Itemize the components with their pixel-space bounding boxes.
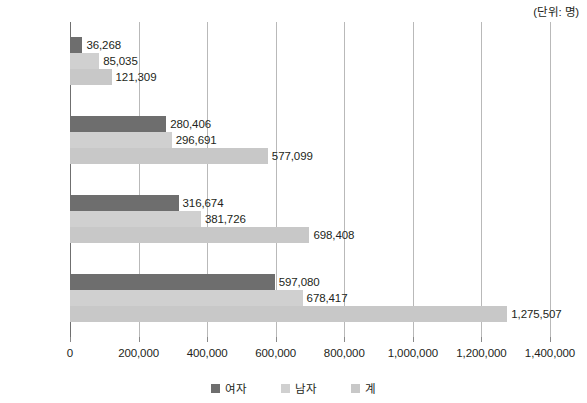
- gridline: [413, 22, 414, 337]
- x-axis-tick-label: 400,000: [187, 347, 228, 359]
- legend-item[interactable]: 계: [351, 380, 376, 396]
- bar: [70, 37, 82, 53]
- gridline: [481, 22, 482, 337]
- bar-value-label: 296,691: [176, 134, 217, 146]
- x-axis-tick: [344, 337, 345, 342]
- x-axis-tick: [139, 337, 140, 342]
- x-axis-tick-label: 1,000,000: [388, 347, 438, 359]
- chart-legend: 여자남자계: [0, 380, 587, 396]
- x-axis-tick-label: 600,000: [255, 347, 296, 359]
- bar: [70, 69, 112, 85]
- bar-value-label: 698,408: [313, 229, 354, 241]
- bar: [70, 53, 99, 69]
- legend-swatch-icon: [211, 384, 220, 393]
- x-axis-tick: [413, 337, 414, 342]
- x-axis-tick: [70, 337, 71, 342]
- bar: [70, 148, 268, 164]
- plot-area: 0200,000400,000600,000800,0001,000,0001,…: [70, 22, 550, 337]
- x-axis-tick-label: 0: [67, 347, 73, 359]
- bar-value-label: 597,080: [279, 276, 320, 288]
- bar-value-label: 121,309: [116, 71, 157, 83]
- bar-value-label: 381,726: [205, 213, 246, 225]
- legend-swatch-icon: [281, 384, 290, 393]
- bar-value-label: 678,417: [307, 292, 348, 304]
- gridline: [550, 22, 551, 337]
- bar-value-label: 1,275,507: [511, 308, 561, 320]
- x-axis-tick-label: 1,200,000: [456, 347, 506, 359]
- legend-item[interactable]: 여자: [211, 380, 247, 396]
- legend-label: 계: [365, 380, 376, 396]
- bar-value-label: 36,268: [86, 39, 121, 51]
- x-axis-tick: [276, 337, 277, 342]
- x-axis-tick-label: 1,400,000: [525, 347, 575, 359]
- bar-value-label: 316,674: [183, 197, 224, 209]
- x-axis-tick-label: 800,000: [324, 347, 365, 359]
- chart-container: (단위: 명) 0200,000400,000600,000800,0001,0…: [0, 0, 587, 403]
- legend-label: 여자: [225, 380, 247, 396]
- unit-note: (단위: 명): [533, 3, 579, 19]
- x-axis-tick-label: 200,000: [118, 347, 159, 359]
- bar: [70, 211, 201, 227]
- bar: [70, 116, 166, 132]
- legend-item[interactable]: 남자: [281, 380, 317, 396]
- bar-value-label: 577,099: [272, 150, 313, 162]
- bar: [70, 132, 172, 148]
- bar: [70, 274, 275, 290]
- bar-value-label: 85,035: [103, 55, 138, 67]
- gridline: [344, 22, 345, 337]
- legend-swatch-icon: [351, 384, 360, 393]
- x-axis-tick: [481, 337, 482, 342]
- bar: [70, 290, 303, 306]
- x-axis-tick: [207, 337, 208, 342]
- x-axis-tick: [550, 337, 551, 342]
- bar: [70, 227, 309, 243]
- bar: [70, 306, 507, 322]
- bar: [70, 195, 179, 211]
- legend-label: 남자: [295, 380, 317, 396]
- bar-value-label: 280,406: [170, 118, 211, 130]
